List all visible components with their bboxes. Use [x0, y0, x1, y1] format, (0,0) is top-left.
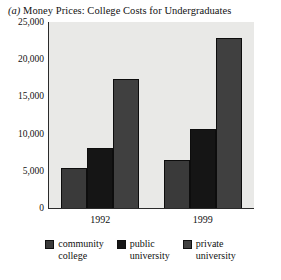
figure-marker: (a) — [8, 5, 20, 16]
x-axis-tick-label: 1999 — [193, 214, 213, 225]
legend-swatch-icon — [183, 240, 192, 249]
bar-group: 1999 — [160, 22, 246, 208]
y-axis-tick-label: 5,000 — [23, 166, 49, 176]
chart-legend: communitycollegepublicuniversityprivateu… — [0, 238, 281, 262]
legend-label: communitycollege — [58, 238, 104, 262]
legend-item: privateuniversity — [183, 238, 236, 262]
legend-swatch-icon — [45, 240, 54, 249]
legend-label: privateuniversity — [196, 238, 236, 262]
legend-item: communitycollege — [45, 238, 104, 262]
bar-series-container: 19921999 — [49, 22, 254, 208]
chart-figure: (a) Money Prices: College Costs for Unde… — [0, 0, 281, 280]
x-axis-tick-label: 1992 — [90, 214, 110, 225]
y-axis-tick-label: 10,000 — [18, 129, 49, 139]
bar-private-university — [113, 79, 139, 208]
legend-label: publicuniversity — [130, 238, 170, 262]
bar-public-university — [190, 129, 216, 208]
y-axis-tick-label: 15,000 — [18, 91, 49, 101]
legend-swatch-icon — [117, 240, 126, 249]
bar-private-university — [216, 38, 242, 208]
chart-title-text: Money Prices: College Costs for Undergra… — [23, 5, 231, 16]
bar-group: 1992 — [57, 22, 143, 208]
y-axis-tick-label: 25,000 — [18, 17, 49, 27]
y-axis-tick-label: 20,000 — [18, 54, 49, 64]
plot-area: 25,00020,00015,00010,0005,0000 19921999 — [48, 22, 254, 209]
bar-community-college — [61, 168, 87, 208]
plot-inner: 25,00020,00015,00010,0005,0000 19921999 — [49, 22, 254, 208]
legend-item: publicuniversity — [117, 238, 170, 262]
chart-title: (a) Money Prices: College Costs for Unde… — [8, 4, 231, 17]
y-axis-tick-label: 0 — [39, 203, 49, 213]
bar-community-college — [164, 160, 190, 208]
bar-public-university — [87, 148, 113, 208]
